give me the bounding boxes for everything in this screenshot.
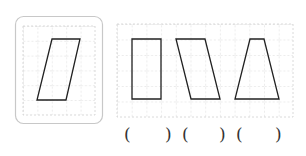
reference-panel xyxy=(16,17,103,124)
answer-1-open: ( xyxy=(124,124,131,144)
answer-3-open: ( xyxy=(236,124,243,144)
answer-3-close: ) xyxy=(275,124,282,144)
options-panel xyxy=(117,24,293,117)
answer-2-close: ) xyxy=(219,124,226,144)
answer-2-open: ( xyxy=(182,124,189,144)
options-grid xyxy=(117,24,293,117)
answer-1-close: ) xyxy=(165,124,172,144)
figure-canvas xyxy=(0,0,306,156)
